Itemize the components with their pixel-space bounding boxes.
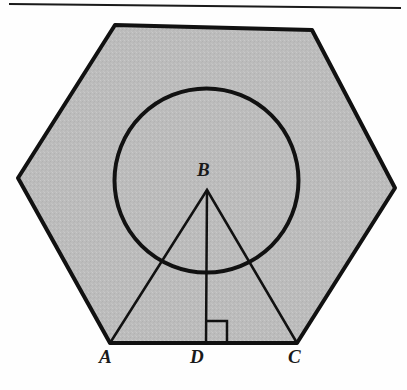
geometry-figure: A B C D [0, 0, 407, 390]
top-horizontal-rule [10, 4, 400, 8]
figure-canvas [0, 0, 407, 390]
vertex-label-c: C [288, 347, 301, 366]
vertex-label-b: B [197, 160, 210, 179]
vertex-label-d: D [190, 347, 204, 366]
vertex-label-a: A [99, 347, 112, 366]
